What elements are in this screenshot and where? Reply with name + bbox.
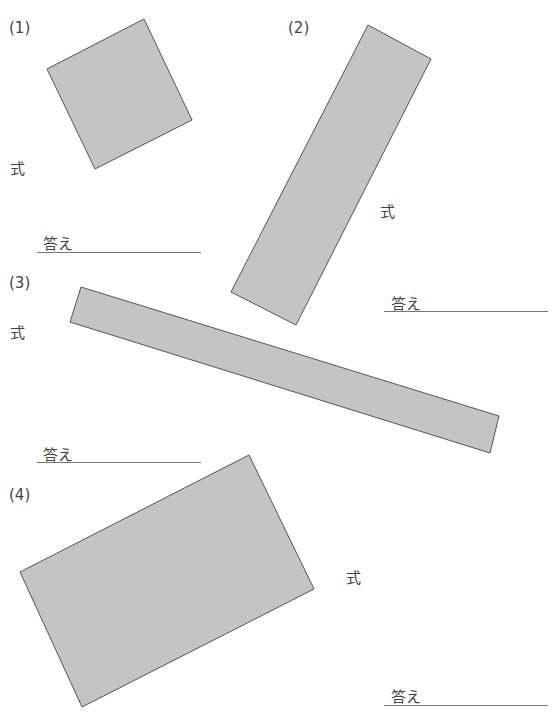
shape-1-square	[47, 19, 192, 169]
problem-4-answer-label: 答え	[391, 685, 421, 706]
problem-4-answer-line[interactable]	[384, 705, 548, 706]
shape-2-rectangle	[231, 25, 431, 325]
problem-3-formula-label: 式	[10, 326, 25, 341]
shape-4-rectangle	[20, 455, 314, 707]
problem-4-formula-label: 式	[346, 571, 361, 586]
problem-1-formula-label: 式	[10, 162, 25, 177]
figures-canvas	[0, 0, 552, 721]
problem-1-answer-label: 答え	[43, 232, 73, 253]
problem-1-answer-line[interactable]	[37, 252, 201, 253]
problem-3-number: (3)	[9, 276, 30, 291]
problem-4-number: (4)	[9, 488, 30, 503]
problem-2-answer-label: 答え	[391, 292, 421, 313]
problem-2-answer-line[interactable]	[384, 311, 548, 312]
problem-2-formula-label: 式	[380, 205, 395, 220]
problem-2-number: (2)	[288, 21, 309, 36]
problem-1-number: (1)	[9, 21, 30, 36]
problem-3-answer-label: 答え	[43, 443, 73, 464]
problem-3-answer-line[interactable]	[37, 462, 201, 463]
